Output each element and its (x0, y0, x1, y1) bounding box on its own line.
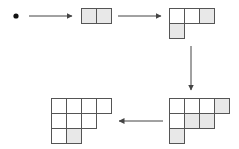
young-diagram-shape-3-1 (170, 9, 215, 39)
start-dot-icon (13, 13, 18, 18)
cell (67, 114, 82, 129)
cell (170, 99, 185, 114)
cell (97, 99, 112, 114)
cell (170, 114, 185, 129)
young-diagram-shape-2 (82, 9, 112, 24)
shaded-cell (200, 114, 215, 129)
cell (185, 9, 200, 24)
cell (170, 9, 185, 24)
young-diagram-shape-4-3-2 (52, 99, 112, 144)
cell (52, 114, 67, 129)
shaded-cell (170, 129, 185, 144)
cell (52, 99, 67, 114)
shaded-cell (185, 114, 200, 129)
shaded-cell (67, 129, 82, 144)
diagram-layer (13, 9, 229, 144)
shaded-cell (97, 9, 112, 24)
young-diagram-sequence (0, 0, 239, 149)
cell (200, 99, 215, 114)
young-diagram-shape-4-3-1 (170, 99, 230, 144)
shaded-cell (200, 9, 215, 24)
cell (52, 129, 67, 144)
shaded-cell (170, 24, 185, 39)
shaded-cell (82, 9, 97, 24)
cell (82, 114, 97, 129)
cell (82, 99, 97, 114)
shaded-cell (215, 99, 230, 114)
cell (67, 99, 82, 114)
cell (185, 99, 200, 114)
